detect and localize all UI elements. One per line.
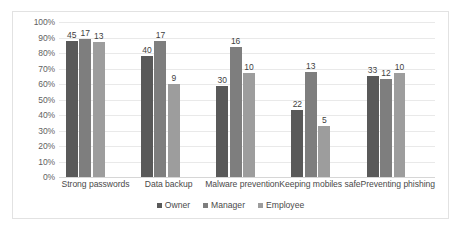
category-axis-label: Data backup xyxy=(132,179,205,189)
bar-slot: 17 xyxy=(79,22,91,177)
bar[interactable] xyxy=(394,73,406,177)
value-axis-tick: 90% xyxy=(38,33,55,43)
bar-slot: 33 xyxy=(367,22,379,177)
bar[interactable] xyxy=(380,79,392,177)
value-axis-tick: 80% xyxy=(38,48,55,58)
bar-value-label: 10 xyxy=(244,62,253,72)
category-axis-label: Malware prevention xyxy=(205,179,279,189)
bar-group-bars: 301610 xyxy=(209,22,284,177)
chart-container: 100%90%80%70%60%50%40%30%20%10%0% 451713… xyxy=(12,11,449,219)
bar[interactable] xyxy=(141,56,153,177)
legend: OwnerManagerEmployee xyxy=(13,200,448,210)
bar-value-label: 33 xyxy=(368,65,377,75)
legend-swatch-icon xyxy=(203,203,208,208)
bar-group: 301610 xyxy=(209,22,284,177)
gridline xyxy=(59,177,435,178)
legend-label: Manager xyxy=(211,200,245,210)
bar-value-label: 45 xyxy=(67,30,76,40)
value-axis-tick: 20% xyxy=(38,141,55,151)
bar-slot: 5 xyxy=(318,22,330,177)
value-axis-tick: 30% xyxy=(38,126,55,136)
bar[interactable] xyxy=(66,41,78,177)
legend-swatch-icon xyxy=(157,203,162,208)
bar-slot: 16 xyxy=(230,22,242,177)
legend-swatch-icon xyxy=(258,203,263,208)
value-axis-tick: 40% xyxy=(38,110,55,120)
value-axis-tick: 70% xyxy=(38,64,55,74)
bar-value-label: 5 xyxy=(322,115,327,125)
value-axis-tick: 0% xyxy=(43,172,55,182)
bar-slot: 45 xyxy=(66,22,78,177)
bar[interactable] xyxy=(230,47,242,177)
bar-value-label: 13 xyxy=(94,31,103,41)
bar[interactable] xyxy=(318,126,330,177)
bar-groups: 4517134017930161022135331210 xyxy=(59,22,435,177)
bar-value-label: 40 xyxy=(142,45,151,55)
bar[interactable] xyxy=(243,73,255,177)
bar-group-bars: 331210 xyxy=(360,22,435,177)
value-axis-tick: 10% xyxy=(38,157,55,167)
bar-slot: 22 xyxy=(291,22,303,177)
bar[interactable] xyxy=(168,84,180,177)
bar-group-bars: 40179 xyxy=(134,22,209,177)
bar-group: 22135 xyxy=(285,22,360,177)
bar[interactable] xyxy=(291,110,303,177)
bar-slot: 17 xyxy=(154,22,166,177)
plot-area: 100%90%80%70%60%50%40%30%20%10%0% 451713… xyxy=(59,22,435,177)
bar-slot: 30 xyxy=(216,22,228,177)
bar[interactable] xyxy=(79,39,91,177)
bar-slot: 13 xyxy=(305,22,317,177)
legend-label: Owner xyxy=(165,200,190,210)
bar[interactable] xyxy=(216,86,228,177)
bar-value-label: 17 xyxy=(80,28,89,38)
value-axis-tick: 50% xyxy=(38,95,55,105)
category-axis-label: Preventing phishing xyxy=(360,179,435,189)
bar[interactable] xyxy=(154,41,166,177)
legend-label: Employee xyxy=(266,200,304,210)
legend-item[interactable]: Owner xyxy=(157,200,190,210)
bar-value-label: 10 xyxy=(395,62,404,72)
bar[interactable] xyxy=(305,72,317,177)
bar-slot: 13 xyxy=(93,22,105,177)
bar-group: 451713 xyxy=(59,22,134,177)
bar-value-label: 9 xyxy=(172,73,177,83)
bar[interactable] xyxy=(93,42,105,177)
legend-item[interactable]: Employee xyxy=(258,200,304,210)
bar-group-bars: 451713 xyxy=(59,22,134,177)
category-axis: Strong passwordsData backupMalware preve… xyxy=(59,179,435,189)
bar-slot: 40 xyxy=(141,22,153,177)
bar-value-label: 22 xyxy=(293,99,302,109)
category-axis-label: Strong passwords xyxy=(59,179,132,189)
category-axis-label: Keeping mobiles safe xyxy=(279,179,360,189)
bar-slot: 10 xyxy=(394,22,406,177)
bar-group: 40179 xyxy=(134,22,209,177)
bar-group: 331210 xyxy=(360,22,435,177)
bar-slot: 12 xyxy=(380,22,392,177)
bar[interactable] xyxy=(367,76,379,177)
bar-value-label: 16 xyxy=(231,36,240,46)
value-axis-tick: 60% xyxy=(38,79,55,89)
bar-group-bars: 22135 xyxy=(285,22,360,177)
bar-value-label: 12 xyxy=(381,68,390,78)
bar-value-label: 13 xyxy=(306,61,315,71)
bar-slot: 9 xyxy=(168,22,180,177)
bar-value-label: 30 xyxy=(217,75,226,85)
bar-slot: 10 xyxy=(243,22,255,177)
legend-item[interactable]: Manager xyxy=(203,200,245,210)
bar-value-label: 17 xyxy=(156,30,165,40)
value-axis-tick: 100% xyxy=(34,17,55,27)
